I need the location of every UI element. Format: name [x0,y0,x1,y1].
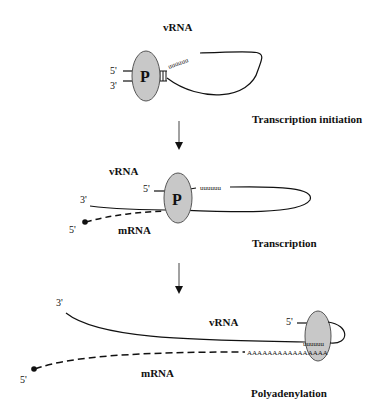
vrna-5-end-label: 5' [286,316,293,327]
uuuuuu-sequence: uuuuuu [200,184,222,192]
poly-a-tail: AAAAAAAAAAAAAAAA [247,349,328,357]
mrna-label: mRNA [141,367,174,379]
stage-title: Transcription initiation [252,113,362,125]
stage-title: Transcription [252,237,317,249]
uuuuuu-sequence: uuuuuu [303,340,325,348]
vrna-strand [66,313,305,342]
vrna-label: vRNA [109,165,138,177]
vrna-label: vRNA [163,21,192,33]
polymerase-label: P [172,191,182,208]
mrna-strand [86,211,165,222]
vrna-3-end-label: 3' [56,297,63,308]
end-5-label: 5' [110,65,117,76]
mrna-5-end-label: 5' [20,374,27,385]
stage-polyadenylation: 3' vRNA 5' 5' mRNA uuuuuu AAAAAAAAAAAAAA… [20,297,345,399]
mrna-strand [35,352,245,369]
influenza-transcription-diagram: vRNA 5' 3' uuuuuu P Transcription initia… [0,0,384,418]
stage-title: Polyadenylation [251,387,327,399]
uuuuuu-sequence: uuuuuu [167,56,190,71]
polymerase-label: P [140,68,150,85]
stage-transcription-initiation: vRNA 5' 3' uuuuuu P Transcription initia… [110,21,362,125]
mrna-5-cap [31,366,37,372]
vrna-3-end-label: 3' [80,194,87,205]
vrna-label: vRNA [209,316,238,328]
stage-transcription: vRNA 3' 5' uuuuuu 5' P mRNA Transcriptio… [69,165,317,249]
mrna-5-cap [82,219,88,225]
vrna-5-end-label: 5' [143,183,150,194]
mrna-label: mRNA [118,224,151,236]
mrna-5-end-label: 5' [69,224,76,235]
end-3-label: 3' [110,80,117,91]
